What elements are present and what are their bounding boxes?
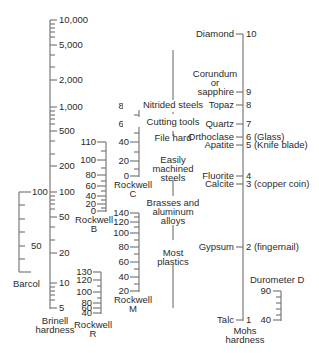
brinell-tick-label: 10,000	[59, 15, 88, 25]
brinell-tick-label: 500	[59, 126, 75, 136]
barcol-tick-label: 50	[31, 241, 42, 251]
rockwell-m-tick-label: 100	[95, 228, 129, 238]
mohs-mineral: Talc	[160, 315, 234, 325]
brinell-tick-label: 1,000	[59, 102, 83, 112]
barcol-title: Barcol	[13, 279, 40, 289]
mohs-value: 3 (copper coin)	[246, 179, 309, 189]
rockwell-b-tick-label: 100	[60, 155, 96, 165]
mohs-mineral: Calcite	[160, 179, 234, 189]
durometer-d-title: Durometer D	[250, 275, 304, 285]
mohs-value: 2 (fingernail)	[246, 242, 299, 252]
mohs-mineral: Quartz	[160, 119, 234, 129]
mohs-mineral: Diamond	[160, 29, 234, 39]
rockwell-r-tick-label: 120	[62, 275, 92, 285]
brinell-tick-label: 2,000	[59, 75, 83, 85]
mohs-mineral: Topaz	[160, 100, 234, 110]
mohs-mineral: sapphire	[160, 87, 234, 97]
brinell-tick-label: 20	[59, 248, 70, 258]
barcol-tick-label: 100	[32, 187, 48, 197]
mohs-mineral: Gypsum	[160, 242, 234, 252]
durometer-d-tick-label: 40	[250, 315, 271, 325]
rockwell-r-title-2: R	[73, 329, 113, 339]
mohs-value: 8	[246, 100, 251, 110]
rockwell-b-tick-label: 80	[60, 170, 96, 180]
mohs-value: 5 (Knife blade)	[246, 140, 308, 150]
mohs-value: 10	[246, 29, 257, 39]
mohs-value: 7	[246, 119, 251, 129]
rockwell-b-tick-label: 110	[60, 137, 96, 147]
material-label: plastics	[123, 257, 223, 267]
rockwell-m-title-2: M	[113, 304, 153, 314]
rockwell-r-tick-label: 100	[62, 287, 92, 297]
mohs-title-2: hardness	[220, 335, 270, 345]
rockwell-m-tick-label: 40	[95, 272, 129, 282]
mohs-mineral: Apatite	[160, 140, 234, 150]
durometer-d-tick-label: 90	[250, 286, 271, 296]
brinell-tick-label: 5,000	[59, 40, 83, 50]
material-label: alloys	[123, 216, 223, 226]
rockwell-r-tick-label: 40	[62, 308, 92, 318]
mohs-value: 9	[246, 87, 251, 97]
